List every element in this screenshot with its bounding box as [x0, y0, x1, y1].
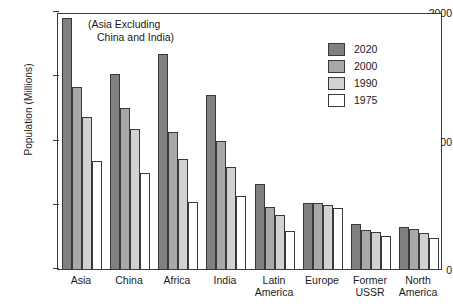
legend-label-2000: 2000: [354, 61, 377, 72]
y-axis-title: Population (Millions): [23, 30, 34, 190]
bar-group-7: [399, 227, 439, 269]
bar-2020-7: [399, 227, 409, 269]
bar-1975-2: [188, 202, 198, 269]
bar-1990-2: [178, 159, 188, 269]
x-axis-label-line1-7: North: [383, 274, 453, 286]
legend-item-2020[interactable]: 2020: [328, 41, 377, 58]
bar-1990-5: [323, 205, 333, 269]
bar-1975-1: [140, 173, 150, 269]
bar-group-3: [206, 95, 246, 269]
y-axis-tick-500: [53, 204, 59, 205]
y-axis-tick-1500: [53, 75, 59, 76]
legend-item-1990[interactable]: 1990: [328, 75, 377, 92]
y-axis-tick-2000: [53, 11, 59, 12]
legend-item-2000[interactable]: 2000: [328, 58, 377, 75]
x-axis-label-line2-4: America: [239, 286, 309, 298]
bar-2000-6: [361, 230, 371, 269]
legend-swatch-2020: [328, 43, 345, 56]
bar-1975-7: [429, 238, 439, 269]
legend-swatch-1975: [328, 94, 345, 107]
bar-2000-7: [409, 229, 419, 269]
bar-1975-3: [236, 196, 246, 269]
bar-2020-2: [158, 54, 168, 269]
bar-2000-2: [168, 132, 178, 269]
legend: 2020200019901975: [328, 41, 377, 109]
legend-label-1975: 1975: [354, 95, 377, 106]
y-axis-tick-0: [53, 268, 59, 269]
bar-2000-1: [120, 108, 130, 269]
bar-1990-1: [130, 129, 140, 269]
bar-2020-4: [255, 184, 265, 269]
bar-1975-4: [285, 231, 295, 269]
plot-area: (Asia Excluding China and India) 2020200…: [57, 13, 442, 270]
bar-group-5: [303, 203, 343, 269]
bar-2020-3: [206, 95, 216, 269]
bar-2020-6: [351, 224, 361, 269]
bar-1990-6: [371, 232, 381, 269]
bar-group-6: [351, 224, 391, 269]
bar-group-4: [255, 184, 295, 269]
bar-1990-3: [226, 167, 236, 269]
bar-group-0: [62, 18, 102, 269]
x-axis-label-line2-7: America: [383, 286, 453, 298]
y-axis-tick-1000: [53, 140, 59, 141]
bar-2000-0: [72, 87, 82, 269]
bar-group-1: [110, 74, 150, 269]
bar-group-2: [158, 54, 198, 269]
bar-1990-4: [275, 215, 285, 269]
bar-1975-5: [333, 208, 343, 269]
bar-1990-0: [82, 117, 92, 269]
bar-2020-0: [62, 18, 72, 269]
legend-item-1975[interactable]: 1975: [328, 92, 377, 109]
bar-2020-1: [110, 74, 120, 269]
bar-2000-3: [216, 141, 226, 270]
legend-label-1990: 1990: [354, 78, 377, 89]
bar-1990-7: [419, 233, 429, 269]
legend-swatch-1990: [328, 77, 345, 90]
bar-1975-0: [92, 161, 102, 269]
bar-2000-4: [265, 207, 275, 269]
bar-2000-5: [313, 203, 323, 269]
bar-2020-5: [303, 203, 313, 269]
legend-label-2020: 2020: [354, 44, 377, 55]
bar-1975-6: [381, 236, 391, 269]
legend-swatch-2000: [328, 60, 345, 73]
x-axis-label-7: NorthAmerica: [383, 274, 453, 298]
